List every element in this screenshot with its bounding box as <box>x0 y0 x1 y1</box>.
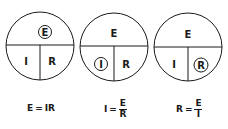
formula1-rhs: IR <box>45 103 55 113</box>
formula2-numerator: E <box>120 99 126 108</box>
circle2-label-e: E <box>111 28 118 39</box>
circle3-label-e: E <box>185 29 192 40</box>
formula3-fraction: E I <box>194 99 202 119</box>
circle3-label-r: R <box>197 60 205 71</box>
formula3-eq: = <box>185 104 193 114</box>
formula2-eq: = <box>109 104 117 114</box>
circle1-label-i: I <box>24 56 28 67</box>
formula2-denominator: R <box>119 110 126 119</box>
circle1-label-r: R <box>48 56 56 67</box>
formula2-lhs: I <box>104 104 107 114</box>
circle2-label-i: I <box>99 59 103 70</box>
formula-r-equals-e-over-i: R = E I <box>176 99 202 119</box>
formula3-numerator: E <box>195 99 201 108</box>
ohms-circle-r <box>154 13 222 81</box>
formula3-denominator: I <box>197 110 200 119</box>
ohms-circle-e <box>6 12 74 80</box>
formula3-lhs: R <box>176 104 183 114</box>
formula-e-equals-ir: E = IR <box>27 103 55 113</box>
formula1-lhs: E <box>27 103 33 113</box>
circle2-label-r: R <box>122 59 130 70</box>
formula-i-equals-e-over-r: I = E R <box>104 99 127 119</box>
circle1-label-e: E <box>42 27 49 38</box>
ohms-circle-i <box>80 13 148 81</box>
formula1-eq: = <box>35 103 43 113</box>
formula2-fraction: E R <box>119 99 127 119</box>
circle3-label-i: I <box>172 59 176 70</box>
